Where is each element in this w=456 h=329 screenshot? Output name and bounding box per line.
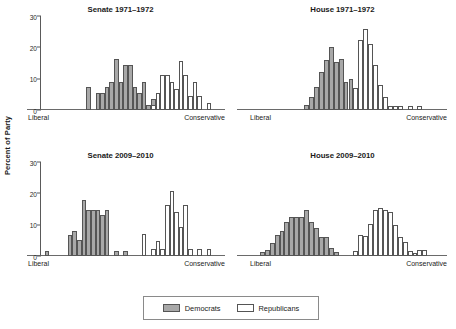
bar-container bbox=[40, 162, 225, 256]
x-axis-label-conservative: Conservative bbox=[184, 260, 225, 267]
legend-swatch-republicans bbox=[237, 304, 254, 312]
plot-area: 0102030LiberalConservative bbox=[14, 162, 227, 274]
y-tick-label: 20 bbox=[21, 190, 37, 197]
histogram-bar bbox=[207, 249, 212, 256]
legend-label-republicans: Republicans bbox=[259, 304, 300, 313]
axes: 0102030 bbox=[40, 16, 225, 110]
axes: 0102030 bbox=[40, 162, 225, 256]
bar-container bbox=[250, 16, 447, 110]
histogram-bar bbox=[123, 251, 128, 256]
y-tick-label: 10 bbox=[21, 222, 37, 229]
legend-entry-democrats: Democrats bbox=[163, 304, 221, 313]
chart-panel-0: Senate 1971–19720102030LiberalConservati… bbox=[14, 0, 227, 146]
histogram-bar bbox=[334, 252, 339, 256]
x-axis-label-liberal: Liberal bbox=[250, 260, 271, 267]
x-axis-labels: LiberalConservative bbox=[14, 111, 227, 127]
histogram-bar bbox=[408, 106, 413, 110]
y-tick-label: 20 bbox=[21, 44, 37, 51]
histogram-bar bbox=[422, 250, 427, 256]
histogram-bar bbox=[197, 249, 202, 256]
chart-panel-2: Senate 2009–20100102030LiberalConservati… bbox=[14, 146, 227, 292]
x-axis-label-conservative: Conservative bbox=[406, 260, 447, 267]
histogram-bar bbox=[86, 87, 91, 110]
x-axis-label-liberal: Liberal bbox=[28, 260, 49, 267]
histogram-figure: Percent of Party Senate 1971–19720102030… bbox=[0, 0, 456, 329]
histogram-bar bbox=[398, 106, 403, 110]
chart-panel-1: House 1971–1972LiberalConservative bbox=[236, 0, 449, 146]
histogram-bar bbox=[197, 96, 202, 110]
plot-area: LiberalConservative bbox=[236, 162, 449, 274]
chart-title: House 1971–1972 bbox=[236, 5, 449, 14]
chart-title: Senate 1971–1972 bbox=[14, 5, 227, 14]
y-tick-label: 10 bbox=[21, 76, 37, 83]
x-axis-labels: LiberalConservative bbox=[14, 257, 227, 273]
histogram-bar bbox=[105, 210, 110, 256]
chart-title: House 2009–2010 bbox=[236, 151, 449, 160]
chart-panel-3: House 2009–2010LiberalConservative bbox=[236, 146, 449, 292]
legend-swatch-democrats bbox=[163, 304, 180, 312]
histogram-bar bbox=[142, 234, 147, 256]
histogram-bar bbox=[45, 251, 50, 256]
legend: DemocratsRepublicans bbox=[143, 296, 319, 320]
x-axis-label-liberal: Liberal bbox=[28, 114, 49, 121]
x-axis-labels: LiberalConservative bbox=[236, 257, 449, 273]
x-axis-labels: LiberalConservative bbox=[236, 111, 449, 127]
bar-container bbox=[250, 162, 447, 256]
plot-area: LiberalConservative bbox=[236, 16, 449, 128]
x-axis-label-conservative: Conservative bbox=[184, 114, 225, 121]
chart-title: Senate 2009–2010 bbox=[14, 151, 227, 160]
legend-entry-republicans: Republicans bbox=[237, 304, 300, 313]
y-tick-label: 30 bbox=[21, 159, 37, 166]
plot-area: 0102030LiberalConservative bbox=[14, 16, 227, 128]
panel-grid: Senate 1971–19720102030LiberalConservati… bbox=[14, 0, 456, 292]
legend-label-democrats: Democrats bbox=[185, 304, 221, 313]
bar-container bbox=[40, 16, 225, 110]
histogram-bar bbox=[114, 251, 119, 256]
histogram-bar bbox=[188, 249, 193, 256]
y-axis-label-text: Percent of Party bbox=[4, 115, 13, 174]
histogram-bar bbox=[417, 106, 422, 110]
axes bbox=[250, 16, 447, 110]
histogram-bar bbox=[207, 103, 212, 110]
x-axis-label-liberal: Liberal bbox=[250, 114, 271, 121]
x-axis-label-conservative: Conservative bbox=[406, 114, 447, 121]
axes bbox=[250, 162, 447, 256]
y-tick-label: 30 bbox=[21, 13, 37, 20]
